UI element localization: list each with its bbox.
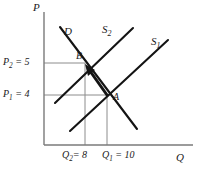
price-1-label: P1 = 4 <box>3 89 29 102</box>
quantity-1-subscript: 1 <box>109 155 113 163</box>
price-1-subscript: 1 <box>9 94 13 102</box>
supply-curve-1-label: S1 <box>151 36 160 50</box>
quantity-1-label: Q1 = 10 <box>102 150 135 163</box>
equilibrium-point-b-label: B <box>76 51 82 61</box>
shift-arrow-shaft <box>90 71 107 95</box>
diagram-canvas <box>0 0 197 172</box>
shift-arrow <box>85 64 107 95</box>
price-2-subscript: 2 <box>9 62 13 70</box>
price-2-value: = 5 <box>15 56 29 67</box>
supply-curve-1-label-subscript: 1 <box>157 41 161 50</box>
quantity-2-label: Q2= 8 <box>62 150 87 163</box>
quantity-2-value: = 8 <box>73 149 87 160</box>
equilibrium-point-a-label: A <box>113 92 119 102</box>
x-axis-label: Q <box>176 152 184 163</box>
demand-curve-label: D <box>64 26 72 37</box>
price-1-value: = 4 <box>15 88 29 99</box>
supply-curve-2-label: S2 <box>102 24 111 38</box>
supply-curve-2-label-subscript: 2 <box>108 29 112 38</box>
quantity-1-value: = 10 <box>115 149 134 160</box>
demand-curve <box>60 27 137 129</box>
price-2-label: P2 = 5 <box>3 57 29 70</box>
supply-curve-2 <box>55 28 133 103</box>
supply-demand-diagram: P Q D S2 S1 A B P2 = 5 P1 = 4 Q2= 8 Q1 =… <box>0 0 197 172</box>
y-axis-label: P <box>33 2 40 13</box>
